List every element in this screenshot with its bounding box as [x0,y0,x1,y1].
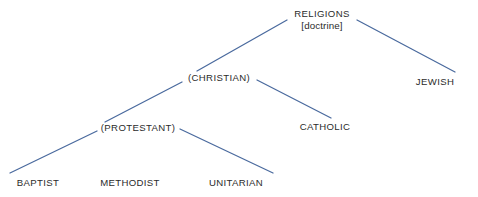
node-methodist-label: METHODIST [100,177,160,188]
node-catholic-label: CATHOLIC [300,121,351,132]
node-baptist-label: BAPTIST [17,177,59,188]
node-baptist: BAPTIST [17,177,59,188]
node-jewish: JEWISH [416,76,454,87]
edge-christian-catholic [257,80,331,118]
node-christian: (CHRISTIAN) [188,72,250,83]
node-protestant: (PROTESTANT) [101,122,175,133]
node-unitarian: UNITARIAN [209,177,263,188]
edge-protestant-baptist [10,131,97,173]
tree-edges-layer [0,0,478,197]
node-religions-label: RELIGIONS [294,8,349,19]
religion-taxonomy-diagram: RELIGIONS[doctrine](CHRISTIAN)JEWISH(PRO… [0,0,478,197]
edge-religions-christian [197,20,287,71]
node-methodist: METHODIST [100,177,160,188]
edge-christian-protestant [105,82,182,122]
node-religions-subtitle: [doctrine] [294,20,349,32]
node-protestant-label: (PROTESTANT) [101,122,175,133]
edge-religions-jewish [357,20,455,72]
node-christian-label: (CHRISTIAN) [188,72,250,83]
node-jewish-label: JEWISH [416,76,454,87]
node-unitarian-label: UNITARIAN [209,177,263,188]
node-catholic: CATHOLIC [300,121,351,132]
node-religions: RELIGIONS[doctrine] [294,8,349,32]
edge-protestant-unitarian [180,129,273,173]
